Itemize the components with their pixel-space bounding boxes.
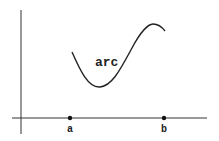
arc-curve bbox=[72, 24, 165, 87]
point-a-dot bbox=[68, 116, 72, 120]
point-b-label: b bbox=[161, 124, 167, 135]
point-b-dot bbox=[162, 116, 166, 120]
arc-label: arc bbox=[95, 55, 119, 70]
point-a-label: a bbox=[67, 124, 73, 135]
arc-diagram: arc a b bbox=[0, 0, 219, 141]
